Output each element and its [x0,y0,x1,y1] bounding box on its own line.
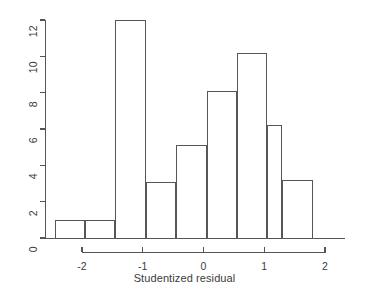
histogram-bar [176,145,206,239]
histogram-bar [115,20,145,239]
histogram-bar [237,53,267,239]
histogram-bar [85,220,115,239]
histogram-bar [282,180,312,239]
histogram-bars [0,0,369,296]
histogram-bar [267,125,282,239]
histogram-plot: 024681012 -2-1012 Studentized residual [0,0,369,296]
histogram-bar [55,220,85,239]
histogram-bar [207,91,237,239]
histogram-bar [146,182,176,239]
